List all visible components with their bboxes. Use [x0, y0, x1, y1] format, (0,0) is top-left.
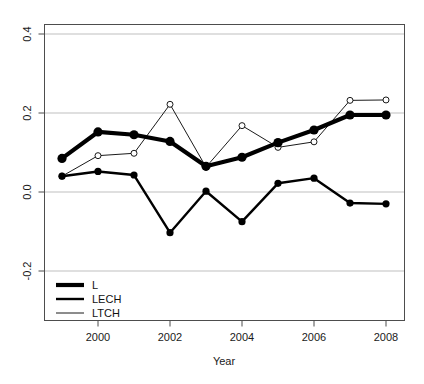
data-point	[130, 171, 137, 178]
data-point	[129, 130, 138, 139]
data-point	[310, 175, 317, 182]
legend-label: LECH	[92, 293, 121, 305]
x-axis-title: Year	[213, 355, 236, 367]
y-tick-label: 0.2	[21, 105, 33, 120]
y-tick-label: -0.2	[21, 262, 33, 281]
y-tick-label: 0.0	[21, 184, 33, 199]
data-point	[167, 101, 173, 107]
data-point	[346, 199, 353, 206]
legend-label: LTCH	[92, 307, 120, 319]
data-point	[311, 139, 317, 145]
data-point	[383, 97, 389, 103]
data-point	[273, 138, 282, 147]
data-point	[347, 97, 353, 103]
data-point	[95, 153, 101, 159]
data-point	[274, 180, 281, 187]
data-point	[381, 110, 390, 119]
data-point	[58, 173, 65, 180]
x-tick-label: 2000	[86, 331, 110, 343]
chart-container: 0.4 0.2 0.0 -0.2 2000 2002 2004 2006 200…	[0, 0, 424, 384]
data-point	[382, 200, 389, 207]
data-point	[201, 162, 210, 171]
line-chart: 0.4 0.2 0.0 -0.2 2000 2002 2004 2006 200…	[0, 0, 424, 384]
data-point	[93, 127, 102, 136]
data-point	[202, 188, 209, 195]
data-point	[57, 154, 66, 163]
data-point	[309, 125, 318, 134]
x-tick-label: 2006	[302, 331, 326, 343]
x-tick-label: 2002	[158, 331, 182, 343]
data-point	[238, 218, 245, 225]
data-point	[345, 110, 354, 119]
data-point	[165, 137, 174, 146]
legend-label: L	[92, 279, 98, 291]
data-point	[131, 150, 137, 156]
x-tick-label: 2008	[374, 331, 398, 343]
data-point	[237, 153, 246, 162]
data-point	[166, 229, 173, 236]
x-tick-label: 2004	[230, 331, 254, 343]
y-tick-label: 0.4	[21, 26, 33, 41]
data-point	[94, 168, 101, 175]
data-point	[239, 123, 245, 129]
